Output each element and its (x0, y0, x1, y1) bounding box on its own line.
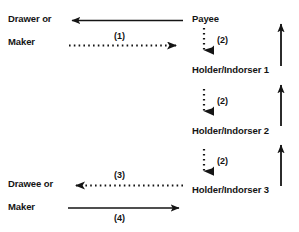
edge-label-2a: (2) (217, 35, 228, 45)
diagram-arrow-layer (0, 0, 299, 232)
node-payee: Payee (192, 13, 219, 24)
node-drawer-line2: Maker (8, 36, 35, 47)
node-drawer-line1: Drawer or (8, 13, 51, 24)
node-drawee-line1: Drawee or (8, 178, 53, 189)
edge-label-2b: (2) (217, 96, 228, 106)
node-drawee-line2: Maker (8, 201, 35, 212)
node-holder-indorser-1: Holder/Indorser 1 (192, 64, 269, 75)
edge-label-2c: (2) (217, 156, 228, 166)
edge-label-4: (4) (114, 213, 125, 223)
flow-diagram: Drawer or Maker Drawee or Maker Payee Ho… (0, 0, 299, 232)
node-holder-indorser-2: Holder/Indorser 2 (192, 125, 269, 136)
edge-label-1: (1) (114, 31, 125, 41)
node-holder-indorser-3: Holder/Indorser 3 (192, 184, 269, 195)
edge-label-3: (3) (114, 170, 125, 180)
